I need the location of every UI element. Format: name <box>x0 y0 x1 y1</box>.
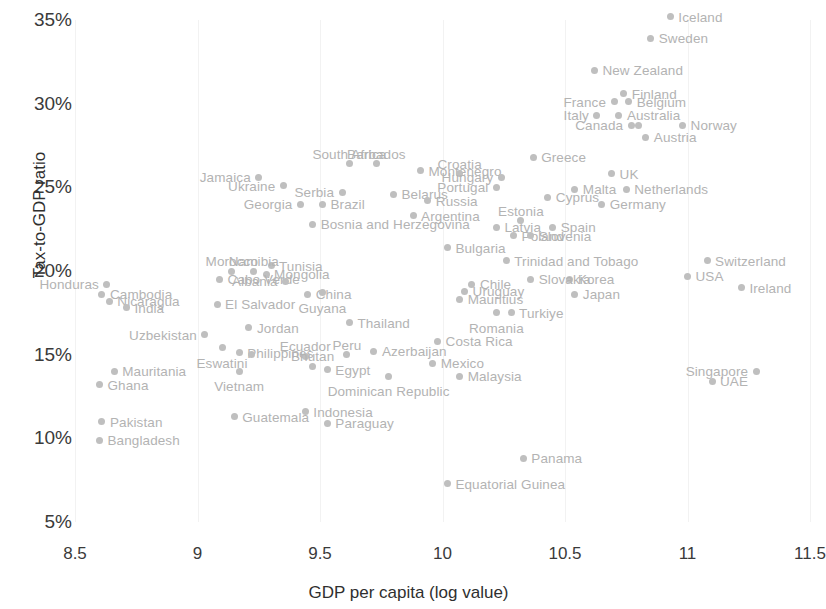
data-point-label: Azerbaijan <box>382 345 447 359</box>
data-point[interactable] <box>642 134 649 141</box>
data-point[interactable] <box>231 413 238 420</box>
data-point[interactable] <box>324 420 331 427</box>
data-point[interactable] <box>738 284 745 291</box>
data-point[interactable] <box>684 273 691 280</box>
data-point[interactable] <box>339 189 346 196</box>
data-point-label: Guatemala <box>242 411 309 425</box>
x-axis-tick-label: 8.5 <box>63 545 87 562</box>
data-point[interactable] <box>625 98 632 105</box>
data-point-label: Slovenia <box>539 230 592 244</box>
data-point-label: Morocco <box>206 255 258 269</box>
data-point-label: Ukraine <box>228 180 275 194</box>
data-point-label: Bulgaria <box>455 242 505 256</box>
gridline-vertical <box>198 20 199 522</box>
data-point-label: Estonia <box>498 205 544 219</box>
data-point[interactable] <box>520 455 527 462</box>
data-point[interactable] <box>444 244 451 251</box>
data-point[interactable] <box>111 368 118 375</box>
data-point[interactable] <box>628 122 635 129</box>
data-point-label: Peru <box>332 339 361 353</box>
data-point-label: Australia <box>627 109 680 123</box>
data-point[interactable] <box>753 368 760 375</box>
data-point[interactable] <box>385 373 392 380</box>
data-point[interactable] <box>493 224 500 231</box>
data-point-label: Brazil <box>330 198 364 212</box>
data-point-label: Mauritius <box>468 293 524 307</box>
data-point[interactable] <box>96 437 103 444</box>
data-point[interactable] <box>620 90 627 97</box>
data-point[interactable] <box>544 194 551 201</box>
data-point-label: New Zealand <box>602 64 683 78</box>
data-point[interactable] <box>508 309 515 316</box>
data-point[interactable] <box>123 304 130 311</box>
data-point[interactable] <box>709 378 716 385</box>
data-point[interactable] <box>530 154 537 161</box>
gridline-vertical <box>443 20 444 522</box>
data-point-label: Albania <box>232 275 278 289</box>
data-point[interactable] <box>309 221 316 228</box>
data-point[interactable] <box>417 167 424 174</box>
data-point[interactable] <box>304 291 311 298</box>
data-point[interactable] <box>370 348 377 355</box>
data-point[interactable] <box>219 344 226 351</box>
data-point-label: Dominican Republic <box>328 385 450 399</box>
data-point[interactable] <box>201 331 208 338</box>
x-axis-tick-label: 9 <box>193 545 202 562</box>
data-point-label: Cyprus <box>556 191 599 205</box>
data-point[interactable] <box>611 98 618 105</box>
data-point[interactable] <box>248 351 255 358</box>
data-point-label: Pakistan <box>110 416 163 430</box>
data-point-label: Norway <box>691 119 737 133</box>
data-point[interactable] <box>493 184 500 191</box>
data-point[interactable] <box>623 186 630 193</box>
data-point[interactable] <box>98 418 105 425</box>
data-point[interactable] <box>216 276 223 283</box>
data-point[interactable] <box>456 296 463 303</box>
data-point-label: Equatorial Guinea <box>455 478 565 492</box>
data-point[interactable] <box>236 368 243 375</box>
data-point[interactable] <box>96 381 103 388</box>
data-point[interactable] <box>493 309 500 316</box>
data-point[interactable] <box>498 174 505 181</box>
data-point-label: Paraguay <box>335 417 394 431</box>
y-axis-tick-label: 15% <box>34 345 72 364</box>
data-point-label: Bosnia and Herzegovina <box>321 218 470 232</box>
data-point[interactable] <box>297 201 304 208</box>
data-point[interactable] <box>106 298 113 305</box>
data-point-label: Malaysia <box>468 370 522 384</box>
y-axis-title: Tax-to-GDP ratio <box>30 90 50 340</box>
data-point[interactable] <box>527 276 534 283</box>
data-point[interactable] <box>510 232 517 239</box>
data-point[interactable] <box>503 257 510 264</box>
data-point[interactable] <box>679 122 686 129</box>
data-point-label: Turkiye <box>519 307 563 321</box>
data-point[interactable] <box>245 324 252 331</box>
data-point[interactable] <box>429 360 436 367</box>
data-point[interactable] <box>390 191 397 198</box>
data-point[interactable] <box>424 197 431 204</box>
data-point[interactable] <box>214 301 221 308</box>
data-point[interactable] <box>704 257 711 264</box>
data-point[interactable] <box>598 201 605 208</box>
data-point[interactable] <box>635 122 642 129</box>
data-point[interactable] <box>280 182 287 189</box>
data-point-label: Egypt <box>335 364 370 378</box>
data-point[interactable] <box>346 319 353 326</box>
data-point[interactable] <box>571 291 578 298</box>
data-point[interactable] <box>444 480 451 487</box>
data-point[interactable] <box>282 278 289 285</box>
data-point[interactable] <box>98 291 105 298</box>
data-point[interactable] <box>608 170 615 177</box>
x-axis-tick-label: 10.5 <box>548 545 581 562</box>
data-point-label: Georgia <box>244 198 293 212</box>
data-point-label: India <box>134 302 164 316</box>
data-point[interactable] <box>667 13 674 20</box>
y-axis-tick-label: 35% <box>34 10 72 29</box>
data-point[interactable] <box>456 373 463 380</box>
data-point[interactable] <box>591 67 598 74</box>
data-point[interactable] <box>647 35 654 42</box>
data-point[interactable] <box>319 201 326 208</box>
x-axis-tick-label: 11 <box>679 545 697 562</box>
data-point[interactable] <box>324 366 331 373</box>
